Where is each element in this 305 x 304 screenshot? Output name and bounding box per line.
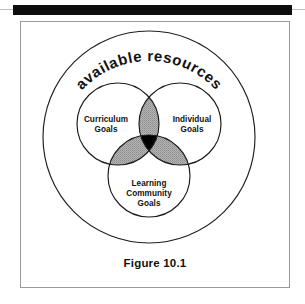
label-learning-line2: Community [126, 189, 172, 198]
label-curriculum-line2: Goals [94, 125, 117, 134]
label-learning-line3: Goals [137, 199, 160, 208]
figure-caption: Figure 10.1 [124, 257, 187, 269]
venn-diagram-figure: available resources Curriculum Goals Ind… [0, 0, 305, 304]
top-black-bar [13, 5, 292, 15]
figure-container: available resources Curriculum Goals Ind… [0, 0, 305, 304]
label-individual-line1: Individual [173, 115, 212, 124]
label-learning-line1: Learning [132, 179, 167, 188]
label-curriculum-line1: Curriculum [84, 115, 128, 124]
label-individual-line2: Goals [180, 125, 203, 134]
